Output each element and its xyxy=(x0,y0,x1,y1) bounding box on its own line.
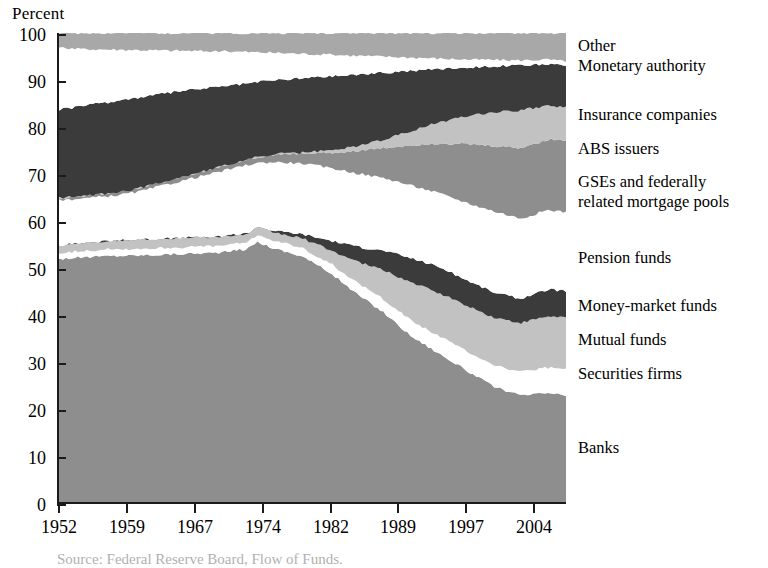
y-tick-label: 80 xyxy=(0,120,46,138)
legend-label: related mortgage pools xyxy=(578,192,729,211)
y-tick-label: 20 xyxy=(0,402,46,420)
source-note: Source: Federal Reserve Board, Flow of F… xyxy=(57,551,343,568)
y-tick-label: 60 xyxy=(0,214,46,232)
legend-label: Pension funds xyxy=(578,248,671,267)
x-tick-mark xyxy=(262,504,264,513)
legend-label: ABS issuers xyxy=(578,139,659,158)
x-tick-mark xyxy=(58,504,60,513)
x-tick-mark xyxy=(126,504,128,513)
legend-label: Other xyxy=(578,36,616,55)
x-tick-mark xyxy=(194,504,196,513)
x-tick-label: 2004 xyxy=(504,518,564,536)
y-tick-label: 40 xyxy=(0,308,46,326)
x-tick-label: 1974 xyxy=(233,518,293,536)
y-tick-mark xyxy=(57,504,66,506)
plot-area xyxy=(57,33,566,504)
stacked-area-plot xyxy=(57,33,566,504)
legend-label: Money-market funds xyxy=(578,296,717,315)
x-tick-mark xyxy=(533,504,535,513)
legend-label: Insurance companies xyxy=(578,105,717,124)
legend-label: Mutual funds xyxy=(578,330,666,349)
x-tick-mark xyxy=(397,504,399,513)
y-tick-label: 10 xyxy=(0,449,46,467)
x-tick-label: 1967 xyxy=(165,518,225,536)
x-tick-label: 1989 xyxy=(368,518,428,536)
y-tick-label: 100 xyxy=(0,26,46,44)
legend-label: Monetary authority xyxy=(578,56,706,75)
x-tick-label: 1952 xyxy=(29,518,89,536)
y-tick-label: 30 xyxy=(0,355,46,373)
y-tick-label: 90 xyxy=(0,73,46,91)
x-tick-mark xyxy=(330,504,332,513)
x-tick-label: 1959 xyxy=(97,518,157,536)
x-tick-label: 1982 xyxy=(301,518,361,536)
y-axis-title: Percent xyxy=(12,4,64,24)
legend-label: Banks xyxy=(578,438,619,457)
x-tick-label: 1997 xyxy=(436,518,496,536)
legend-label: Securities firms xyxy=(578,364,682,383)
legend-label: GSEs and federally xyxy=(578,172,706,191)
y-tick-label: 70 xyxy=(0,167,46,185)
y-tick-label: 0 xyxy=(0,496,46,514)
y-tick-label: 50 xyxy=(0,261,46,279)
x-tick-mark xyxy=(465,504,467,513)
